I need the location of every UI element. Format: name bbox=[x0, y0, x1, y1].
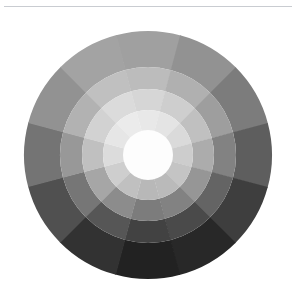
wheel-segment-r4-s10 bbox=[24, 122, 63, 187]
wheel-segment-r4-s7 bbox=[115, 240, 180, 279]
wheel-segment-r4-s4 bbox=[233, 123, 272, 188]
header-divider bbox=[4, 6, 292, 7]
wheel-segment-r3-s1 bbox=[125, 67, 171, 91]
wheel-segment-r2-s1 bbox=[131, 89, 166, 112]
wheel-segment-r3-s10 bbox=[60, 132, 84, 178]
grayscale-color-wheel bbox=[0, 8, 296, 299]
figure-container bbox=[0, 8, 296, 299]
wheel-segment-r3-s7 bbox=[125, 219, 171, 243]
wheel-center-hub bbox=[123, 130, 173, 180]
wheel-segment-r4-s1 bbox=[116, 31, 181, 70]
wheel-segment-r2-s7 bbox=[131, 198, 166, 221]
wheel-segment-r3-s4 bbox=[212, 132, 236, 178]
wheel-segment-r2-s10 bbox=[82, 138, 105, 173]
wheel-segment-r2-s4 bbox=[191, 138, 214, 173]
